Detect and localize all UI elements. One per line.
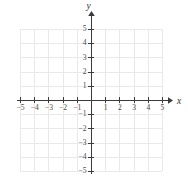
y-axis-tick-label: −3 — [78, 138, 86, 147]
x-axis-tick-label: −2 — [59, 103, 67, 112]
x-axis-name-label: x — [176, 96, 182, 106]
y-axis-tick-label: −2 — [78, 124, 86, 133]
coordinate-plane-figure: −5−4−3−2−112345−5−4−3−2−112345 xy — [0, 0, 188, 192]
x-axis-tick-label: −5 — [16, 103, 24, 112]
x-axis-tick-label: 3 — [132, 103, 136, 112]
y-axis-name-label: y — [85, 1, 91, 11]
x-axis-arrowhead — [168, 97, 173, 104]
y-axis-tick-label: 5 — [83, 24, 87, 33]
y-axis-tick-label: 3 — [83, 53, 87, 62]
x-axis-tick-label: −4 — [31, 103, 39, 112]
axis-lines — [17, 11, 173, 174]
x-axis-tick-label: −3 — [45, 103, 53, 112]
coordinate-plane-canvas: −5−4−3−2−112345−5−4−3−2−112345 xy — [0, 0, 188, 192]
y-axis-tick-label: 1 — [83, 81, 87, 90]
x-axis-tick-label: 5 — [161, 103, 165, 112]
y-axis-tick-label: −5 — [78, 166, 86, 175]
x-axis-tick-label: 2 — [118, 103, 122, 112]
y-axis-tick-label: −1 — [78, 109, 86, 118]
tick-labels: −5−4−3−2−112345−5−4−3−2−112345 — [16, 24, 164, 175]
y-axis-tick-label: 4 — [83, 38, 87, 47]
x-axis-tick-label: 1 — [104, 103, 108, 112]
y-axis-tick-label: −4 — [78, 152, 86, 161]
y-axis-arrowhead — [88, 11, 95, 16]
x-axis-tick-label: 4 — [146, 103, 150, 112]
y-axis-tick-label: 2 — [83, 67, 87, 76]
